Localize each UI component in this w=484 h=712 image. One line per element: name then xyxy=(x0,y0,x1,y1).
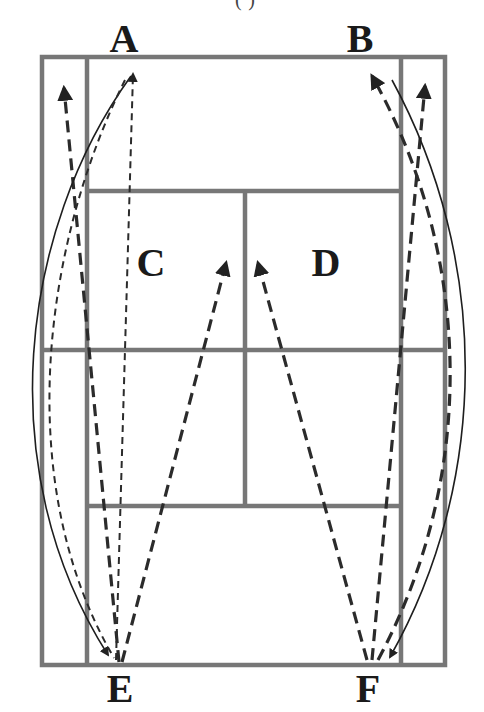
shot-path-f-to-d xyxy=(258,263,367,660)
label-b: B xyxy=(347,16,374,61)
label-f: F xyxy=(356,666,380,711)
shot-path-e-to-left-alley xyxy=(64,88,119,662)
label-a: A xyxy=(110,16,139,61)
label-d: D xyxy=(312,240,341,285)
shot-path-e-to-c xyxy=(122,263,226,662)
court-diagram: (·) A B C D E F xyxy=(0,0,484,712)
label-e: E xyxy=(107,666,134,711)
label-c: C xyxy=(137,240,166,285)
caption-fragment: (·) xyxy=(235,0,255,11)
solid-curve-a-to-e xyxy=(32,76,131,655)
return-curves-left xyxy=(32,76,131,658)
shot-path-e-to-a xyxy=(116,74,133,660)
court-lines xyxy=(42,57,445,665)
dashed-curve-f-to-b xyxy=(372,76,450,660)
